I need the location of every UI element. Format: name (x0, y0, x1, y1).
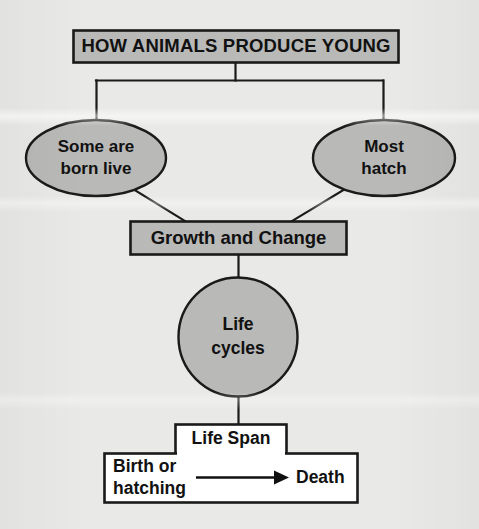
connector-diagonal-left (128, 186, 185, 221)
branch-node-born-live-shape (26, 120, 166, 196)
title-node-label: HOW ANIMALS PRODUCE YOUNG (81, 35, 390, 56)
branch-node-born-live-line2: born live (61, 159, 132, 178)
life-span-header-label: Life Span (192, 428, 271, 448)
branch-node-hatch: Most hatch (313, 120, 455, 196)
animal-life-cycle-flowchart: HOW ANIMALS PRODUCE YOUNG Some are born … (0, 0, 479, 529)
life-span-seam-mask (177, 450, 285, 457)
branch-node-hatch-shape (313, 120, 455, 196)
title-node: HOW ANIMALS PRODUCE YOUNG (74, 31, 399, 63)
life-span-start-line2: hatching (113, 478, 186, 498)
growth-node-label: Growth and Change (151, 227, 327, 248)
life-span-start-line1: Birth or (113, 456, 176, 476)
cycle-node-line2: cycles (211, 338, 265, 358)
branch-node-born-live-line1: Some are (58, 137, 135, 156)
branch-node-hatch-line2: hatch (361, 159, 406, 178)
growth-node: Growth and Change (131, 222, 347, 255)
branch-node-hatch-line1: Most (364, 137, 404, 156)
cycle-node-line1: Life (222, 314, 253, 334)
connector-diagonal-right (292, 186, 350, 221)
diagram-page: HOW ANIMALS PRODUCE YOUNG Some are born … (0, 0, 479, 529)
life-span-end-label: Death (296, 467, 345, 487)
cycle-node: Life cycles (179, 278, 298, 397)
life-span-group: Life Span Birth or hatching Death (105, 425, 358, 503)
branch-node-born-live: Some are born live (26, 120, 166, 196)
